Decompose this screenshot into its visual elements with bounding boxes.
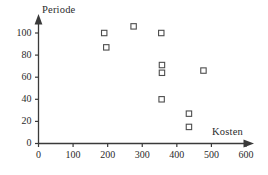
- y-tick-label: 40: [0, 93, 32, 104]
- x-axis-arrow-icon: [244, 140, 255, 148]
- data-point-marker: [201, 68, 206, 73]
- data-point-marker: [159, 70, 164, 75]
- x-tick-label: 600: [226, 149, 266, 160]
- data-point-marker: [131, 24, 136, 29]
- data-point-marker: [186, 124, 191, 129]
- x-axis-title: Kosten: [212, 126, 243, 137]
- y-tick-label: 80: [0, 49, 32, 60]
- y-tick-label: 100: [0, 27, 32, 38]
- scatter-chart: Periode Kosten 0204060801000100200300400…: [0, 0, 268, 175]
- data-point-marker: [186, 111, 191, 116]
- data-point-marker: [159, 62, 164, 67]
- y-tick-label: 20: [0, 115, 32, 126]
- data-point-group: [102, 24, 207, 130]
- y-tick-label: 0: [0, 137, 32, 148]
- data-point-marker: [159, 97, 164, 102]
- y-axis-arrow-icon: [35, 14, 43, 25]
- data-point-marker: [104, 45, 109, 50]
- data-point-marker: [102, 30, 107, 35]
- y-axis-title: Periode: [42, 4, 75, 15]
- data-point-marker: [159, 30, 164, 35]
- y-tick-label: 60: [0, 71, 32, 82]
